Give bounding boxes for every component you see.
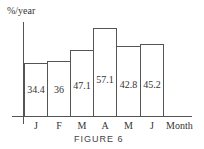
x-tick-mar: M	[70, 120, 94, 131]
x-axis-label: Month	[166, 120, 193, 131]
x-tick-may: M	[116, 120, 141, 131]
value-label-jan: 34.4	[24, 84, 48, 95]
figure-caption: FIGURE 6	[74, 134, 124, 144]
x-tick-feb: F	[47, 120, 71, 131]
x-tick-jan: J	[24, 120, 48, 131]
value-label-apr: 57.1	[93, 74, 117, 85]
bar-apr	[93, 28, 117, 116]
x-tick-jun: J	[140, 120, 164, 131]
value-label-may: 42.8	[116, 79, 141, 90]
value-label-mar: 47.1	[70, 80, 94, 91]
value-label-jun: 45.2	[140, 79, 164, 90]
y-axis-label: %/year	[7, 5, 35, 16]
value-label-feb: 36	[47, 84, 71, 95]
x-tick-apr: A	[93, 120, 117, 131]
x-axis-line	[12, 116, 192, 117]
